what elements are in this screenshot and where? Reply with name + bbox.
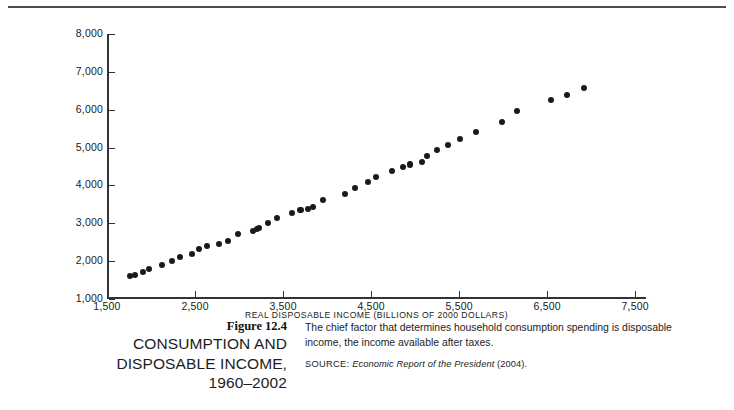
- source-title: Economic Report of the President: [352, 359, 494, 369]
- data-point: [250, 228, 256, 234]
- data-point: [274, 215, 280, 221]
- source-label: SOURCE:: [305, 359, 349, 369]
- data-point: [434, 147, 440, 153]
- x-tick-label: 7,500: [605, 300, 665, 312]
- y-tick: [109, 261, 115, 262]
- figure-number: Figure 12.4: [62, 318, 287, 334]
- data-point: [514, 108, 520, 114]
- figure-page: REAL CONSUMPTION (BILLIONS OF 2000 DOLLA…: [0, 0, 734, 410]
- scatter-chart: REAL CONSUMPTION (BILLIONS OF 2000 DOLLA…: [0, 14, 734, 304]
- y-tick-label: 3,000: [55, 216, 103, 228]
- data-point: [235, 231, 241, 237]
- figure-title-line-1: CONSUMPTION AND: [62, 334, 287, 354]
- caption-source: SOURCE: Economic Report of the President…: [305, 359, 705, 369]
- caption-body: The chief factor that determines househo…: [305, 320, 705, 350]
- caption-left: Figure 12.4 CONSUMPTION AND DISPOSABLE I…: [62, 318, 287, 393]
- data-point: [132, 272, 138, 278]
- data-point: [342, 191, 348, 197]
- data-point: [265, 220, 271, 226]
- x-tick-label: 1,500: [77, 300, 137, 312]
- y-tick: [109, 34, 115, 35]
- figure-title: CONSUMPTION AND DISPOSABLE INCOME, 1960–…: [62, 334, 287, 393]
- data-point: [365, 179, 371, 185]
- data-point: [196, 246, 202, 252]
- data-point: [457, 136, 463, 142]
- x-tick: [195, 291, 196, 297]
- x-tick: [459, 291, 460, 297]
- data-point: [256, 225, 262, 231]
- figure-title-line-3: 1960–2002: [62, 373, 287, 393]
- y-tick-label: 5,000: [55, 141, 103, 153]
- data-point: [216, 241, 222, 247]
- x-tick: [107, 291, 108, 297]
- figure-title-line-2: DISPOSABLE INCOME,: [62, 354, 287, 374]
- data-point: [424, 153, 430, 159]
- data-point: [140, 269, 146, 275]
- data-point: [169, 258, 175, 264]
- data-point: [389, 168, 395, 174]
- caption-right: The chief factor that determines househo…: [305, 320, 705, 369]
- x-tick-label: 2,500: [165, 300, 225, 312]
- data-point: [320, 197, 326, 203]
- data-point: [177, 254, 183, 260]
- y-tick: [109, 223, 115, 224]
- x-tick-label: 3,500: [253, 300, 313, 312]
- data-point: [548, 97, 554, 103]
- y-tick: [109, 110, 115, 111]
- data-point: [146, 266, 152, 272]
- data-point: [310, 204, 316, 210]
- data-point: [419, 159, 425, 165]
- y-tick: [109, 72, 115, 73]
- x-tick: [283, 291, 284, 297]
- x-tick-label: 5,500: [429, 300, 489, 312]
- data-point: [407, 162, 413, 168]
- data-point: [352, 185, 358, 191]
- x-tick-label: 6,500: [517, 300, 577, 312]
- data-point: [189, 251, 195, 257]
- y-tick-label: 4,000: [55, 178, 103, 190]
- x-tick-label: 4,500: [341, 300, 401, 312]
- data-point: [289, 210, 295, 216]
- data-point: [159, 262, 165, 268]
- data-point: [373, 174, 379, 180]
- y-tick: [109, 148, 115, 149]
- plot-area: [107, 34, 644, 299]
- data-point: [499, 119, 505, 125]
- data-point: [298, 207, 304, 213]
- data-point: [581, 85, 587, 91]
- data-point: [473, 129, 479, 135]
- data-point: [400, 164, 406, 170]
- x-tick: [371, 291, 372, 297]
- data-point: [445, 142, 451, 148]
- data-point: [564, 92, 570, 98]
- data-point: [225, 238, 231, 244]
- y-tick-label: 7,000: [55, 65, 103, 77]
- source-year: (2004).: [497, 359, 527, 369]
- y-tick-label: 8,000: [55, 27, 103, 39]
- figure-caption: Figure 12.4 CONSUMPTION AND DISPOSABLE I…: [0, 318, 734, 410]
- y-tick: [109, 185, 115, 186]
- x-tick: [635, 291, 636, 297]
- y-tick-label: 6,000: [55, 103, 103, 115]
- x-tick: [547, 291, 548, 297]
- y-tick-label: 2,000: [55, 254, 103, 266]
- data-point: [204, 243, 210, 249]
- header-rule: [8, 6, 726, 8]
